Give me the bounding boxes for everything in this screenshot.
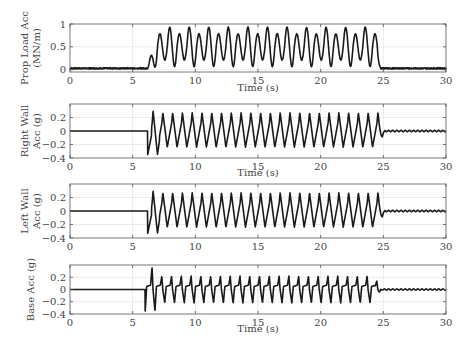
x-axis-label: Time (s) [237, 167, 278, 178]
y-tick-label: −0.4 [42, 309, 66, 320]
y-tick-label: 0 [60, 284, 66, 295]
x-tick-label: 20 [314, 317, 327, 328]
y-tick-label: 0 [60, 206, 66, 217]
x-tick-label: 30 [440, 241, 453, 252]
y-axis-label: Prop Load Acc [19, 11, 30, 85]
subplot-1: 05101520253000.51Time (s)Prop Load Acc(M… [19, 11, 452, 93]
x-tick-label: 5 [129, 241, 135, 252]
x-tick-label: 30 [440, 317, 453, 328]
x-tick-label: 25 [377, 75, 390, 86]
y-tick-label: −0.2 [42, 139, 66, 150]
y-tick-label: 1 [60, 19, 66, 30]
subplot-2: 0510152025300.20−0.2−0.4Time (s)Right Wa… [19, 104, 452, 178]
x-tick-label: 20 [314, 161, 327, 172]
y-axis-label: Left Wall [19, 188, 30, 233]
y-axis-label: Acc (g) [31, 193, 42, 230]
x-tick-label: 10 [189, 161, 202, 172]
x-tick-label: 0 [67, 241, 73, 252]
x-axis-label: Time (s) [237, 323, 278, 334]
y-tick-label: 0.5 [50, 41, 66, 52]
x-tick-label: 5 [129, 161, 135, 172]
x-tick-label: 10 [189, 317, 202, 328]
x-tick-label: 20 [314, 75, 327, 86]
x-tick-label: 15 [252, 241, 265, 252]
y-axis-label: Right Wall [19, 105, 30, 158]
x-tick-label: 20 [314, 241, 327, 252]
y-tick-label: 0.2 [50, 272, 66, 283]
x-tick-label: 10 [189, 241, 202, 252]
x-tick-label: 25 [377, 317, 390, 328]
x-tick-label: 10 [189, 75, 202, 86]
x-tick-label: 5 [129, 75, 135, 86]
y-axis-label: Base Acc (g) [25, 258, 36, 321]
x-tick-label: 5 [129, 317, 135, 328]
x-tick-label: 0 [67, 317, 73, 328]
x-tick-label: 0 [67, 75, 73, 86]
subplot-4: 0510152025300.20−0.2−0.4Time (s)Base Acc… [25, 258, 452, 334]
y-tick-label: 0 [60, 64, 66, 75]
x-tick-label: 0 [67, 161, 73, 172]
x-tick-label: 30 [440, 161, 453, 172]
x-tick-label: 25 [377, 241, 390, 252]
y-tick-label: 0.2 [50, 192, 66, 203]
y-axis-label: Acc (g) [31, 113, 42, 150]
chart-figure: 05101520253000.51Time (s)Prop Load Acc(M… [0, 0, 470, 355]
x-tick-label: 25 [377, 161, 390, 172]
y-tick-label: 0 [60, 126, 66, 137]
y-axis-label: (MN/m) [31, 28, 42, 68]
y-tick-label: −0.4 [42, 153, 66, 164]
y-tick-label: 0.2 [50, 112, 66, 123]
x-axis-label: Time (s) [237, 82, 278, 93]
y-tick-label: −0.2 [42, 219, 66, 230]
y-tick-label: −0.4 [42, 233, 66, 244]
x-tick-label: 30 [440, 75, 453, 86]
y-tick-label: −0.2 [42, 296, 66, 307]
subplot-3: 0510152025300.20−0.2−0.4Left WallAcc (g) [19, 184, 452, 252]
